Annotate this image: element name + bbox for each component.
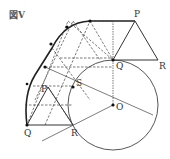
label-p-top: P (134, 9, 140, 19)
label-q-top: Q (116, 61, 123, 71)
label-r-bottom: R (71, 128, 78, 138)
dashed-construction (25, 21, 113, 125)
label-r-top: R (159, 61, 166, 71)
geometry-figure: 図V P Q R S (0, 0, 170, 159)
label-q-bottom: Q (24, 128, 31, 138)
triangle-bottom (27, 87, 73, 125)
triangle-top (113, 21, 158, 60)
points (25, 19, 114, 126)
figure-title: 図V (9, 10, 26, 20)
label-o: O (116, 102, 123, 112)
label-p-bottom: P (41, 84, 47, 94)
label-s: S (76, 78, 82, 88)
